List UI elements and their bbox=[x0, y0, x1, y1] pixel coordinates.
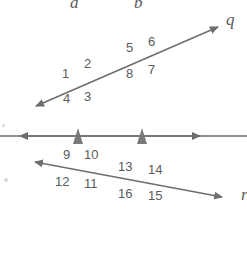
line-label-a: a bbox=[70, 0, 79, 11]
angle-label-16: 16 bbox=[118, 187, 132, 200]
scan-speck-upper bbox=[2, 124, 5, 127]
angle-label-2: 2 bbox=[84, 57, 91, 70]
line-label-b: b bbox=[134, 0, 143, 11]
scan-speck-lower bbox=[4, 178, 8, 182]
angle-label-10: 10 bbox=[84, 148, 98, 161]
angle-label-12: 12 bbox=[55, 175, 69, 188]
angle-label-6: 6 bbox=[148, 35, 155, 48]
angle-label-13: 13 bbox=[118, 160, 132, 173]
angle-label-1: 1 bbox=[62, 67, 69, 80]
angle-label-3: 3 bbox=[84, 90, 91, 103]
angle-label-8: 8 bbox=[126, 67, 133, 80]
line-label-q: q bbox=[226, 11, 235, 28]
angle-label-14: 14 bbox=[148, 163, 162, 176]
line-b bbox=[20, 128, 247, 144]
angle-label-7: 7 bbox=[148, 63, 155, 76]
angle-label-9: 9 bbox=[63, 148, 70, 161]
angle-label-4: 4 bbox=[63, 92, 70, 105]
angle-label-5: 5 bbox=[126, 41, 133, 54]
diagram-canvas bbox=[0, 0, 247, 270]
angle-label-15: 15 bbox=[148, 189, 162, 202]
angle-label-11: 11 bbox=[84, 177, 98, 190]
line-label-r: r bbox=[241, 186, 247, 203]
geometry-figure: 1 2 3 4 5 6 7 8 9 10 11 12 13 14 15 16 a… bbox=[0, 0, 247, 270]
